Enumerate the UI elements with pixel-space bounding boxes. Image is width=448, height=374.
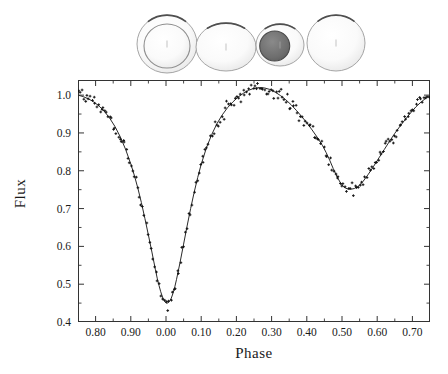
star-models-group <box>137 15 365 73</box>
axis-frame <box>79 81 430 322</box>
data-point <box>302 124 305 127</box>
data-point <box>225 100 228 103</box>
x-axis-title: Phase <box>78 345 430 362</box>
data-point <box>403 115 406 118</box>
data-point <box>264 89 267 92</box>
x-tick-label: 0.00 <box>156 326 176 338</box>
data-point <box>243 94 246 97</box>
data-point <box>148 241 151 244</box>
y-tick-label: 0.7 <box>57 203 72 215</box>
data-point <box>416 98 419 101</box>
data-point <box>298 119 301 122</box>
data-point <box>327 163 330 166</box>
data-point <box>368 167 371 170</box>
data-point <box>214 121 217 124</box>
data-point <box>277 97 280 100</box>
y-tick-label: 1.0 <box>57 89 72 101</box>
data-point <box>242 89 245 92</box>
x-tick-label: 0.30 <box>262 326 282 338</box>
x-tick-labels: 0.800.900.000.100.200.300.400.500.600.70 <box>86 326 423 338</box>
x-tick-label: 0.20 <box>226 326 246 338</box>
model-fit-curve <box>78 88 430 304</box>
axis-ticks <box>78 80 430 322</box>
data-point <box>272 97 275 100</box>
quadrature-view <box>196 23 256 71</box>
data-point <box>280 88 283 91</box>
data-point <box>256 82 259 85</box>
data-point <box>99 111 102 114</box>
observed-data-points <box>78 82 430 312</box>
data-point <box>351 181 354 184</box>
y-axis-title: Flux <box>12 154 29 234</box>
light-curve-plot <box>78 80 430 322</box>
data-point <box>93 96 96 99</box>
figure-root: 0.800.900.000.100.200.300.400.500.600.70… <box>0 0 448 374</box>
data-point <box>240 101 243 104</box>
x-tick-label: 0.90 <box>121 326 141 338</box>
y-tick-label: 0.5 <box>57 278 72 290</box>
quadrature-view-2 <box>307 15 365 71</box>
data-point <box>223 118 226 121</box>
data-point <box>233 104 236 107</box>
data-point <box>219 121 222 124</box>
data-point <box>268 90 271 93</box>
x-tick-label: 0.70 <box>402 326 422 338</box>
data-point <box>150 247 153 250</box>
data-point <box>248 93 251 96</box>
data-point <box>84 100 87 103</box>
data-point <box>213 132 216 135</box>
data-point <box>321 140 324 143</box>
star-geometry-strip <box>0 0 448 78</box>
y-tick-label: 0.6 <box>57 240 72 252</box>
y-tick-labels: 0.40.50.60.70.80.91.0 <box>57 89 72 328</box>
data-point <box>96 106 99 109</box>
data-point <box>362 183 365 186</box>
data-point <box>130 165 133 168</box>
data-point <box>312 125 315 128</box>
x-tick-label: 0.80 <box>86 326 106 338</box>
data-point <box>295 104 298 107</box>
light-curve-svg <box>78 80 430 322</box>
data-point <box>387 138 390 141</box>
x-tick-label: 0.40 <box>297 326 317 338</box>
data-point <box>153 266 156 269</box>
y-tick-label: 0.8 <box>57 165 72 177</box>
data-point <box>392 142 395 145</box>
data-point <box>86 94 89 97</box>
star-models-svg <box>0 0 448 78</box>
model-fit-path <box>78 88 430 304</box>
data-point <box>359 184 362 187</box>
data-point <box>166 309 169 312</box>
data-point <box>292 100 295 103</box>
data-point <box>132 170 135 173</box>
data-point <box>81 89 84 92</box>
data-point <box>345 190 348 193</box>
y-tick-label: 0.9 <box>57 127 72 139</box>
data-point <box>89 95 92 98</box>
data-point <box>147 233 150 236</box>
data-point <box>278 90 281 93</box>
primary-eclipse-view <box>137 15 197 73</box>
secondary-eclipse-view <box>256 24 304 66</box>
data-point <box>250 84 253 87</box>
data-point <box>252 87 255 90</box>
data-point <box>286 93 289 96</box>
data-point <box>141 205 144 208</box>
data-point <box>254 85 257 88</box>
x-tick-label: 0.10 <box>191 326 211 338</box>
data-point <box>115 132 118 135</box>
y-tick-label: 0.4 <box>57 316 72 328</box>
x-tick-label: 0.50 <box>332 326 352 338</box>
x-tick-label: 0.60 <box>367 326 387 338</box>
data-point <box>83 98 86 101</box>
data-point <box>352 194 355 197</box>
